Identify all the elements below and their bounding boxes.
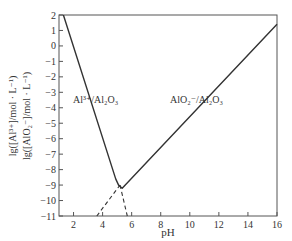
y-tick-label: −9 (45, 180, 56, 191)
x-tick-label: 10 (185, 219, 195, 230)
x-axis-label: pH (161, 226, 175, 238)
y-tick-label: −2 (45, 71, 56, 82)
x-axis-ticks: 246810121416 (71, 212, 282, 230)
y-tick-label: −5 (45, 118, 56, 129)
y-axis-ticks: 210−1−2−3−4−5−6−7−8−9−10−11 (40, 10, 63, 222)
annotation-al3-al2o3: Al³⁺/Al₂O₃ (73, 94, 118, 105)
annotation-alo2-al2o3: AlO₂⁻/Al₂O₃ (170, 94, 223, 105)
x-tick-label: 14 (243, 219, 253, 230)
y-tick-label: −4 (45, 102, 56, 113)
data-series (63, 15, 277, 216)
y-axis-label-al3: lg([Al³⁺]/mol · L⁻¹) (7, 76, 19, 156)
y-tick-label: −7 (45, 149, 56, 160)
chart: 246810121416 210−1−2−3−4−5−6−7−8−9−10−11… (0, 0, 292, 241)
series-line (120, 185, 127, 216)
x-tick-label: 2 (71, 219, 76, 230)
y-tick-label: 2 (51, 10, 56, 21)
x-tick-label: 12 (214, 219, 224, 230)
y-axis-label-alo2: lg([AlO₂⁻]/mol · L⁻¹) (21, 72, 33, 160)
y-tick-label: −10 (40, 195, 56, 206)
plot-frame (59, 15, 277, 216)
y-tick-label: −8 (45, 164, 56, 175)
y-tick-label: 0 (51, 40, 56, 51)
y-tick-label: −6 (45, 133, 56, 144)
series-line (97, 185, 120, 216)
x-tick-label: 6 (129, 219, 134, 230)
x-tick-label: 16 (272, 219, 282, 230)
y-tick-label: −3 (45, 87, 56, 98)
y-tick-label: −1 (45, 56, 56, 67)
x-tick-label: 4 (100, 219, 105, 230)
y-tick-label: −11 (41, 211, 56, 222)
y-tick-label: 1 (51, 25, 56, 36)
